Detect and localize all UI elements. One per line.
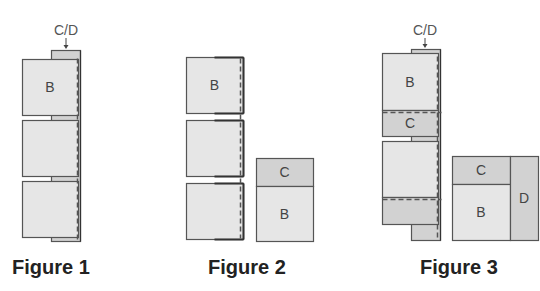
panel [187,184,244,240]
figure-2: BCB [187,58,314,242]
piece-label: C [279,164,289,180]
panel [23,121,79,177]
panel [383,142,439,198]
piece-label: D [519,190,529,206]
piece-label: B [476,204,485,220]
cd-annotation-label: C/D [413,22,437,38]
panel [383,198,439,225]
figure-1: BC/D [23,22,81,242]
arrowhead-icon [423,44,428,48]
panel [23,182,79,238]
cd-annotation-label: C/D [54,22,78,38]
piece-label: B [45,79,54,95]
arrowhead-icon [64,45,69,49]
figure-2-caption: Figure 2 [208,256,286,279]
piece-label: C [405,115,415,131]
piece-label: C [476,162,486,178]
figure-3-caption: Figure 3 [420,256,498,279]
figure-3: BCCBDC/D [383,22,539,241]
piece-label: B [210,77,219,93]
panel [187,121,244,177]
piece-label: B [405,74,414,90]
piece-label: B [280,206,289,222]
figure-1-caption: Figure 1 [12,256,90,279]
diagram-canvas: BC/D BCB BCCBDC/D [0,0,540,291]
